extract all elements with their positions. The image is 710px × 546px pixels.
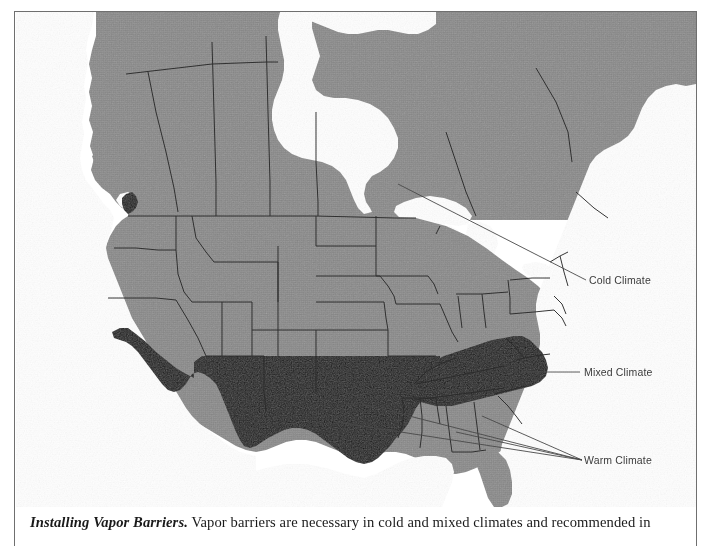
figure-caption: Installing Vapor Barriers. Vapor barrier…: [30, 513, 690, 533]
figure-container: Cold Climate Mixed Climate Warm Climate …: [0, 0, 710, 546]
cold-climate-label: Cold Climate: [589, 274, 651, 286]
map-stage: Cold Climate Mixed Climate Warm Climate: [16, 12, 696, 507]
mixed-climate-label: Mixed Climate: [584, 366, 652, 378]
caption-lead: Installing Vapor Barriers.: [30, 514, 188, 530]
caption-body: Vapor barriers are necessary in cold and…: [188, 514, 651, 530]
warm-climate-label: Warm Climate: [584, 454, 652, 466]
north-america-map-svg: [16, 12, 696, 507]
